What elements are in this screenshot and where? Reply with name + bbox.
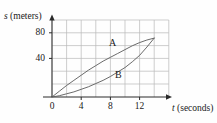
x-tick-label-0: 0 bbox=[45, 102, 59, 112]
curve-label-b: B bbox=[115, 70, 122, 80]
y-axis-arrow-icon bbox=[49, 15, 54, 21]
x-axis-unit: (seconds) bbox=[177, 103, 213, 113]
x-tick-label-12: 12 bbox=[133, 102, 147, 112]
y-axis-title: s (meters) bbox=[4, 12, 42, 22]
y-axis-variable: s bbox=[4, 11, 8, 21]
x-tick-label-4: 4 bbox=[74, 102, 88, 112]
y-axis-unit: (meters) bbox=[10, 11, 42, 21]
curve-b bbox=[52, 38, 154, 97]
x-axis-title: t (seconds) bbox=[172, 104, 213, 114]
curve-label-a: A bbox=[109, 38, 116, 48]
curve-a bbox=[52, 38, 154, 97]
y-tick-label-40: 40 bbox=[25, 54, 45, 64]
y-tick-label-80: 80 bbox=[25, 28, 45, 38]
x-axis-variable: t bbox=[172, 103, 175, 113]
graph-figure: s (meters) t (seconds) 80 40 0 4 8 12 A … bbox=[0, 0, 217, 123]
x-tick-label-8: 8 bbox=[103, 102, 117, 112]
y-axis bbox=[49, 15, 54, 98]
